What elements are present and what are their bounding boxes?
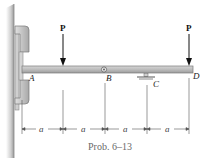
point-label-A: A <box>28 73 35 83</box>
dimension-label-2: a <box>81 124 86 134</box>
point-label-B: B <box>106 73 112 83</box>
beam <box>22 66 193 73</box>
figure-caption: Prob. 6–13 <box>88 141 132 152</box>
dimension-label-1: a <box>39 124 44 134</box>
beam-diagram: P P A B C D a a a a <box>0 0 207 158</box>
pin-B <box>101 67 106 72</box>
load-P-left: P <box>60 23 66 66</box>
dimension-label-4: a <box>165 124 170 134</box>
load-label-left: P <box>60 23 66 33</box>
dimension-label-3: a <box>123 124 128 134</box>
load-P-right: P <box>186 23 192 66</box>
point-label-C: C <box>153 79 160 89</box>
wall <box>6 4 14 158</box>
dimension-lines <box>22 128 189 131</box>
load-label-right: P <box>186 23 192 33</box>
point-label-D: D <box>192 71 200 81</box>
extension-lines <box>22 78 189 134</box>
